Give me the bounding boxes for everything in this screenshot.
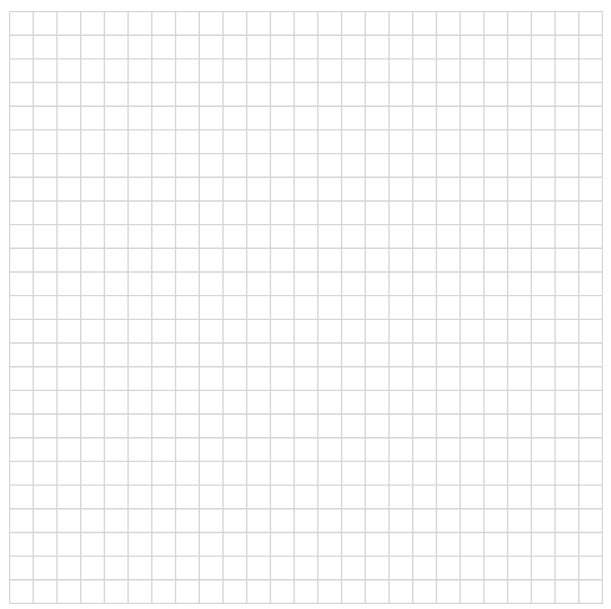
grid-paper	[9, 11, 603, 604]
